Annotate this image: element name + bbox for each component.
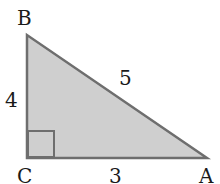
side-label-ab: 5 <box>119 66 132 90</box>
vertex-label-c: C <box>17 164 32 184</box>
side-label-ca: 3 <box>109 164 122 184</box>
side-label-bc: 4 <box>5 88 18 112</box>
vertex-label-a: A <box>198 164 214 184</box>
triangle-diagram: B C A 4 3 5 <box>0 0 220 184</box>
vertex-label-b: B <box>17 6 32 30</box>
